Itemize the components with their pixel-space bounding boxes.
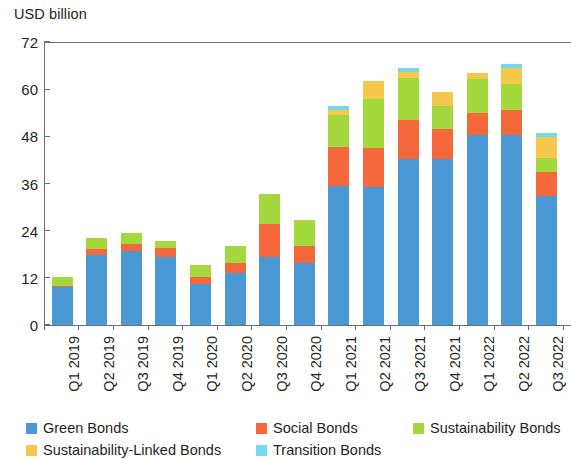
bar-segment	[190, 265, 211, 277]
bar-segment	[121, 233, 142, 244]
x-axis-line	[44, 325, 571, 326]
x-axis-tick	[251, 325, 252, 330]
x-axis-tick-label: Q2 2022	[517, 336, 532, 414]
bar-segment	[294, 220, 315, 246]
bar-segment	[363, 81, 384, 99]
bar-q3-2019[interactable]	[121, 233, 142, 325]
bar-segment	[225, 263, 246, 273]
bar-segment	[432, 106, 453, 129]
legend-row-1: Green Bonds Social Bonds Sustainability …	[26, 421, 571, 441]
bar-segment	[86, 255, 107, 325]
bar-segment	[536, 137, 557, 158]
x-axis-tick-label: Q2 2021	[378, 336, 393, 414]
bar-segment	[501, 68, 522, 85]
legend-swatch-sustainability-bonds	[413, 423, 424, 434]
x-axis-tick	[321, 325, 322, 330]
legend-swatch-green-bonds	[26, 423, 37, 434]
bar-segment	[259, 194, 280, 224]
y-axis-tick-label: 48	[4, 129, 38, 144]
bar-segment	[501, 110, 522, 135]
bar-q1-2020[interactable]	[190, 265, 211, 326]
y-axis-tick-label: 12	[4, 270, 38, 285]
y-axis-tick-label: 24	[4, 223, 38, 238]
plot-area	[44, 42, 571, 325]
bar-segment	[432, 129, 453, 159]
bar-segment	[294, 246, 315, 263]
x-axis-tick-label: Q4 2020	[309, 336, 324, 414]
bar-segment	[363, 99, 384, 148]
x-axis-tick-label: Q2 2020	[240, 336, 255, 414]
legend-label-green-bonds: Green Bonds	[43, 421, 128, 437]
x-axis-tick	[44, 325, 45, 330]
x-axis-tick	[528, 325, 529, 330]
bar-segment	[398, 120, 419, 159]
x-axis-tick-label: Q3 2022	[551, 336, 566, 414]
x-axis-tick	[563, 325, 564, 330]
legend-item-sustainability-linked-bonds[interactable]: Sustainability-Linked Bonds	[26, 443, 221, 459]
bar-q2-2020[interactable]	[225, 246, 246, 325]
bar-segment	[398, 78, 419, 120]
x-axis-tick-label: Q2 2019	[102, 336, 117, 414]
x-axis-tick	[286, 325, 287, 330]
bar-q2-2021[interactable]	[363, 81, 384, 325]
legend-item-sustainability-bonds[interactable]: Sustainability Bonds	[413, 421, 561, 437]
bar-segment	[225, 273, 246, 325]
bar-segment	[501, 84, 522, 109]
chart-legend: Green Bonds Social Bonds Sustainability …	[26, 421, 571, 459]
bar-segment	[328, 147, 349, 186]
bar-segment	[432, 159, 453, 325]
legend-item-social-bonds[interactable]: Social Bonds	[256, 421, 358, 437]
bar-segment	[155, 241, 176, 249]
bar-q3-2021[interactable]	[398, 68, 419, 325]
bar-segment	[155, 257, 176, 325]
x-axis-tick	[424, 325, 425, 330]
bar-q3-2020[interactable]	[259, 194, 280, 325]
bar-q4-2021[interactable]	[432, 92, 453, 325]
x-axis-tick	[355, 325, 356, 330]
bar-q1-2022[interactable]	[467, 73, 488, 325]
y-axis-tick-label: 36	[4, 176, 38, 191]
bar-segment	[501, 135, 522, 325]
legend-label-transition-bonds: Transition Bonds	[273, 443, 381, 459]
x-axis-tick	[494, 325, 495, 330]
x-axis-tick	[459, 325, 460, 330]
x-axis-tick-label: Q1 2021	[344, 336, 359, 414]
x-axis-tick	[390, 325, 391, 330]
bar-segment	[467, 135, 488, 325]
bar-q4-2019[interactable]	[155, 241, 176, 325]
x-axis-tick-label: Q3 2020	[275, 336, 290, 414]
bar-q2-2022[interactable]	[501, 64, 522, 325]
bar-segment	[328, 186, 349, 325]
y-axis-tick-label: 0	[4, 318, 38, 333]
bar-segment	[536, 196, 557, 325]
legend-row-2: Sustainability-Linked Bonds Transition B…	[26, 443, 571, 459]
bar-q1-2019[interactable]	[52, 277, 73, 325]
bar-q4-2020[interactable]	[294, 220, 315, 325]
legend-label-sustainability-bonds: Sustainability Bonds	[430, 421, 561, 437]
legend-item-transition-bonds[interactable]: Transition Bonds	[256, 443, 381, 459]
bar-segment	[155, 248, 176, 257]
legend-item-green-bonds[interactable]: Green Bonds	[26, 421, 128, 437]
bar-segment	[121, 244, 142, 251]
bar-q1-2021[interactable]	[328, 106, 349, 325]
x-axis-tick-label: Q1 2022	[482, 336, 497, 414]
bar-segment	[328, 115, 349, 147]
bar-segment	[121, 251, 142, 325]
bar-q3-2022[interactable]	[536, 133, 557, 325]
bar-q2-2019[interactable]	[86, 238, 107, 325]
bar-segment	[432, 92, 453, 106]
x-axis-tick	[78, 325, 79, 330]
y-axis-tick-label: 72	[4, 35, 38, 50]
legend-swatch-sustainability-linked-bonds	[26, 445, 37, 456]
y-axis-tick-label: 60	[4, 82, 38, 97]
bar-segment	[190, 284, 211, 325]
bar-segment	[467, 113, 488, 135]
bar-segment	[52, 277, 73, 286]
bar-segment	[536, 158, 557, 172]
bar-segment	[259, 224, 280, 257]
x-axis-tick	[182, 325, 183, 330]
bar-segment	[363, 187, 384, 325]
x-axis-tick-label: Q3 2021	[413, 336, 428, 414]
legend-swatch-social-bonds	[256, 423, 267, 434]
x-axis-tick-label: Q4 2019	[171, 336, 186, 414]
